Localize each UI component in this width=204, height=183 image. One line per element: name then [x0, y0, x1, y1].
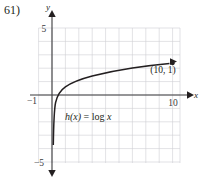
function-label-text: h(x) = logx	[65, 111, 112, 123]
point-annotation-label: (10, 1)	[150, 65, 175, 76]
function-expr: log	[92, 111, 105, 122]
y-tick-label-5: 5	[42, 24, 47, 34]
function-variable: x	[106, 111, 112, 122]
y-tick-label-minus-5: −5	[34, 158, 44, 168]
y-tick-label-minus-1: −1	[27, 96, 37, 106]
function-label: h(x) = logx	[65, 111, 112, 123]
x-axis-label: x	[193, 90, 198, 100]
figure-page: 61)	[0, 0, 204, 183]
function-equals: =	[81, 111, 92, 122]
x-tick-label-10: 10	[168, 98, 178, 108]
y-axis-label: y	[45, 2, 50, 12]
graph-figure: 5 −1 −5 10 y x (10, 1) h(x) = logx	[0, 0, 204, 183]
function-arg: (x)	[70, 111, 82, 123]
y-axis	[48, 10, 55, 177]
